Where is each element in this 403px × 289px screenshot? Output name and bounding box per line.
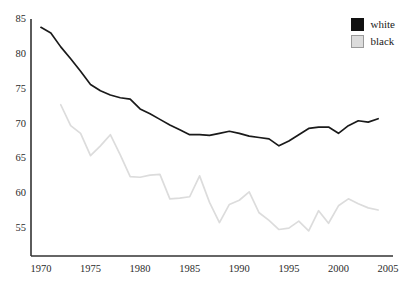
x-tick-label: 2005 [368,264,403,275]
x-tick-label: 1985 [170,264,210,275]
y-tick-label: 55 [2,223,26,234]
x-tick-label: 1970 [21,264,61,275]
y-tick-label: 75 [2,84,26,95]
x-tick-label: 1975 [71,264,111,275]
line-chart-plot [0,0,403,289]
chart-legend: white black [351,18,395,48]
legend-swatch-black [351,35,364,48]
legend-item-black: black [351,35,395,48]
legend-label-white: white [371,19,395,30]
axis-lines [31,19,393,256]
chart-container: 55606570758085 1970197519801985199019952… [0,0,403,289]
x-tick-label: 2000 [319,264,359,275]
y-tick-label: 70 [2,119,26,130]
series-line-black [61,105,378,231]
x-tick-label: 1990 [219,264,259,275]
legend-item-white: white [351,18,395,31]
y-tick-label: 60 [2,188,26,199]
legend-swatch-white [351,18,364,31]
y-tick-label: 65 [2,153,26,164]
series-line-white [41,27,378,146]
y-tick-label: 85 [2,14,26,25]
x-tick-label: 1980 [120,264,160,275]
series-lines [41,27,378,231]
y-tick-label: 80 [2,49,26,60]
legend-label-black: black [371,36,395,47]
x-tick-label: 1995 [269,264,309,275]
